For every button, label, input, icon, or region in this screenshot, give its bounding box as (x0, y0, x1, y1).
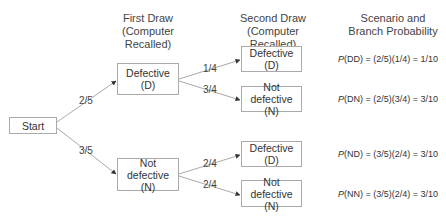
label-n-to-n: 2/4 (203, 179, 217, 190)
node-dd: Defective (D) (241, 46, 302, 72)
label-start-to-d: 2/5 (79, 95, 93, 106)
prob-nn: P(NN) = (3/5)(2/4) = 3/10 (338, 189, 438, 199)
label-d-to-d: 1/4 (203, 63, 217, 74)
node-first-defective: Defective (D) (117, 63, 179, 95)
header-first-draw: First Draw (Computer Recalled) (98, 12, 198, 51)
prob-dd: P(DD) = (2/5)(1/4) = 1/10 (338, 54, 438, 64)
node-start: Start (9, 117, 57, 134)
label-d-to-n: 3/4 (203, 84, 217, 95)
header-scenario: Scenario and Branch Probability (340, 12, 446, 38)
label-start-to-n: 3/5 (79, 145, 93, 156)
node-nn: Not defective (N) (241, 180, 302, 207)
label-n-to-d: 2/4 (203, 158, 217, 169)
prob-dn: P(DN) = (2/5)(3/4) = 3/10 (338, 94, 438, 104)
node-dn: Not defective (N) (241, 86, 302, 112)
node-nd: Defective (D) (241, 141, 302, 167)
prob-nd: P(ND) = (3/5)(2/4) = 3/10 (338, 149, 438, 159)
node-first-not-defective: Not defective (N) (117, 158, 179, 191)
